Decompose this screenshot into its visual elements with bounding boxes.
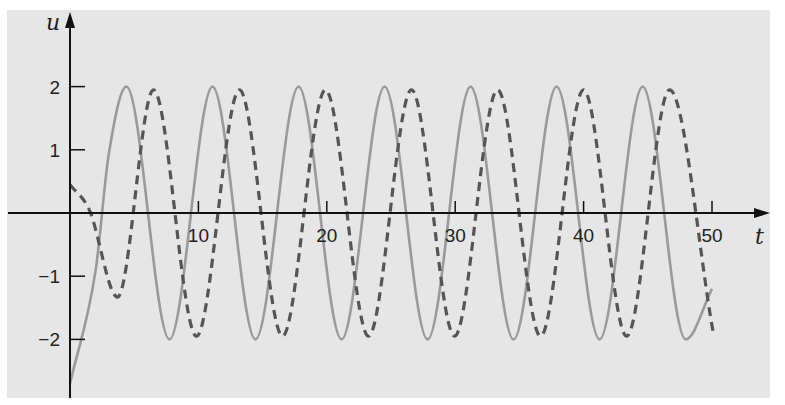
chart: 1020304050 21−1−2 t u	[0, 0, 785, 405]
x-tick-label: 40	[573, 225, 594, 246]
y-axis-arrow-icon	[65, 12, 75, 28]
y-tick-label: −2	[38, 329, 60, 350]
x-tick-label: 20	[316, 225, 337, 246]
curves	[70, 87, 713, 384]
axes: 1020304050 21−1−2 t u	[8, 10, 770, 398]
solid-curve-u	[70, 87, 712, 384]
x-axis-label: t	[755, 224, 764, 249]
y-tick-label: −1	[38, 266, 60, 287]
x-axis-arrow-icon	[754, 208, 770, 218]
x-ticks: 1020304050	[188, 201, 723, 246]
x-tick-label: 10	[188, 225, 209, 246]
y-axis-label: u	[46, 10, 60, 35]
x-tick-label: 50	[701, 225, 722, 246]
y-tick-label: 2	[49, 77, 60, 98]
y-tick-label: 1	[49, 140, 60, 161]
x-tick-label: 30	[445, 225, 466, 246]
